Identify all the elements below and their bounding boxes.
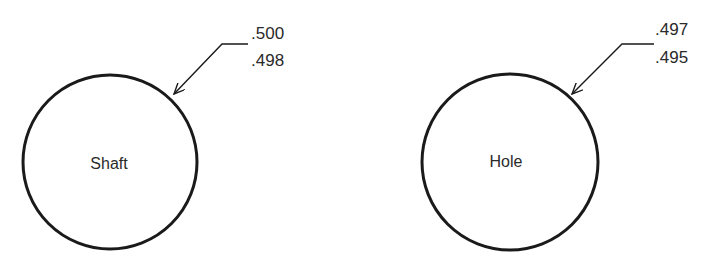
hole-label: Hole: [490, 153, 523, 171]
hole-view: [422, 44, 654, 250]
shaft-leader-line: [174, 44, 248, 94]
hole-leader-line: [572, 44, 654, 94]
hole-tolerance-lower: .495: [655, 49, 688, 66]
hole-tolerance-upper: .497: [655, 21, 688, 38]
shaft-tolerance-upper: .500: [251, 25, 284, 42]
shaft-label: Shaft: [90, 155, 127, 173]
shaft-tolerance-lower: .498: [251, 52, 284, 69]
shaft-view: [23, 44, 248, 249]
tolerance-drawing: [0, 0, 711, 266]
